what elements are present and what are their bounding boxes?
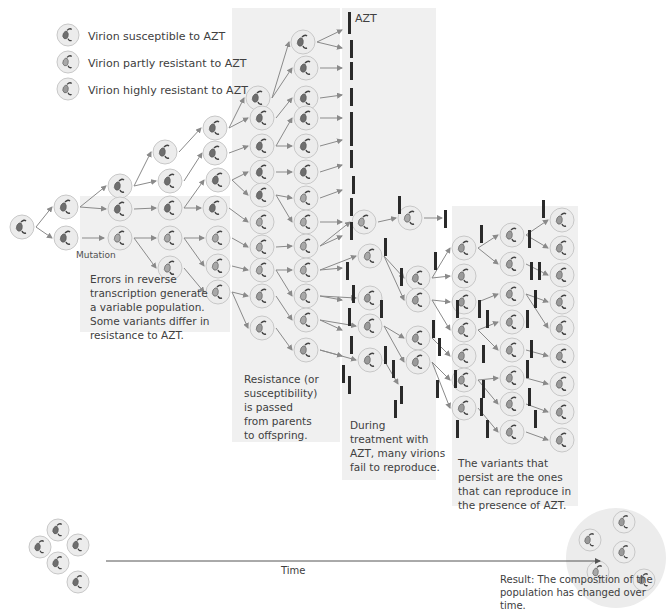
virion-h bbox=[550, 372, 574, 396]
azt-bar bbox=[350, 62, 353, 80]
azt-bar bbox=[530, 262, 533, 280]
lineage-arrow bbox=[378, 218, 396, 222]
virion-h bbox=[550, 428, 574, 452]
virion-h bbox=[500, 252, 524, 276]
virion-p bbox=[294, 210, 318, 234]
virion-h bbox=[550, 316, 574, 340]
virion-p bbox=[206, 280, 230, 304]
virion-h bbox=[358, 314, 382, 338]
lineage-arrow bbox=[134, 181, 156, 186]
virion-s bbox=[47, 519, 69, 541]
lineage-arrow bbox=[232, 180, 248, 195]
azt-bar bbox=[482, 345, 485, 363]
virion-h bbox=[550, 290, 574, 314]
lineage-arrow bbox=[36, 227, 52, 238]
azt-bar bbox=[542, 200, 545, 218]
virion-h bbox=[500, 282, 524, 306]
lineage-arrow bbox=[134, 208, 156, 209]
virion-s bbox=[203, 116, 227, 140]
virion-h bbox=[452, 396, 476, 420]
azt-bar bbox=[350, 222, 353, 240]
virion-p bbox=[352, 210, 376, 234]
virion-h bbox=[500, 392, 524, 416]
virion-s bbox=[250, 134, 274, 158]
lineage-arrow bbox=[80, 207, 106, 209]
virion-p bbox=[206, 226, 230, 250]
azt-bar bbox=[348, 12, 351, 34]
azt-bar bbox=[528, 230, 531, 248]
virion-s bbox=[294, 56, 318, 80]
azt-bar bbox=[438, 338, 441, 356]
virion-h bbox=[452, 344, 476, 368]
azt-bar bbox=[398, 196, 401, 214]
lineage-arrow bbox=[478, 330, 498, 350]
azt-bar bbox=[486, 310, 489, 328]
azt-bar bbox=[478, 300, 481, 318]
virion-s bbox=[294, 134, 318, 158]
azt-bar bbox=[352, 176, 355, 194]
virion-h bbox=[452, 290, 476, 314]
lineage-arrow bbox=[432, 300, 450, 302]
virion-h bbox=[452, 318, 476, 342]
azt-bar bbox=[384, 346, 387, 364]
lineage-arrow bbox=[276, 270, 292, 296]
virion-s bbox=[54, 195, 78, 219]
virion-h bbox=[406, 350, 430, 374]
virion-s bbox=[108, 197, 132, 221]
lineage-arrow bbox=[134, 152, 151, 186]
lineage-arrow bbox=[179, 128, 201, 152]
virion-h bbox=[406, 288, 430, 312]
azt-bar bbox=[350, 88, 353, 106]
azt-bar bbox=[530, 340, 533, 358]
azt-bar bbox=[392, 360, 395, 378]
virion-s bbox=[108, 174, 132, 198]
virion-h bbox=[613, 511, 635, 533]
lineage-arrow bbox=[272, 42, 289, 98]
virion-s bbox=[294, 106, 318, 130]
azt-bar bbox=[526, 360, 529, 378]
virion-s bbox=[206, 168, 230, 192]
azt-bar bbox=[348, 308, 351, 326]
lineage-arrow bbox=[526, 264, 548, 275]
virion-h bbox=[500, 420, 524, 444]
virion-p bbox=[294, 308, 318, 332]
lineage-arrow bbox=[184, 153, 202, 181]
virion-p bbox=[250, 258, 274, 282]
virion-h bbox=[500, 223, 524, 247]
lineage-arrow bbox=[36, 207, 52, 227]
azt-bar bbox=[346, 262, 349, 280]
lineage-arrow bbox=[320, 165, 342, 172]
azt-bar bbox=[444, 210, 447, 228]
virion-p bbox=[294, 186, 318, 210]
virion-h bbox=[406, 326, 430, 350]
lineage-arrow bbox=[184, 238, 204, 266]
virion-p bbox=[294, 234, 318, 258]
virion-h bbox=[250, 316, 274, 340]
lineage-arrow bbox=[526, 378, 548, 384]
lineage-arrow bbox=[526, 432, 548, 440]
azt-bar bbox=[480, 398, 483, 416]
lineage-arrow bbox=[276, 118, 292, 146]
virion-s bbox=[250, 160, 274, 184]
virion-s bbox=[291, 30, 315, 54]
lineage-arrow bbox=[276, 328, 292, 350]
virion-h bbox=[57, 78, 79, 100]
azt-bar bbox=[434, 252, 437, 270]
azt-bar bbox=[350, 150, 353, 168]
lineage-arrow bbox=[229, 208, 248, 222]
lineage-arrow bbox=[478, 378, 498, 380]
virion-h bbox=[452, 236, 476, 260]
azt-bar bbox=[350, 128, 353, 146]
virion-p bbox=[294, 284, 318, 308]
caption-result: Result: The composition of the populatio… bbox=[500, 573, 662, 612]
virion-s bbox=[203, 196, 227, 220]
virion-s bbox=[250, 106, 274, 130]
virion-p bbox=[294, 258, 318, 282]
lineage-arrow bbox=[276, 195, 292, 198]
virion-s bbox=[47, 552, 69, 574]
azt-bar bbox=[436, 380, 439, 398]
virion-h bbox=[358, 286, 382, 310]
virion-s bbox=[10, 215, 34, 239]
azt-bar bbox=[482, 380, 485, 398]
lineage-arrow bbox=[276, 296, 292, 320]
